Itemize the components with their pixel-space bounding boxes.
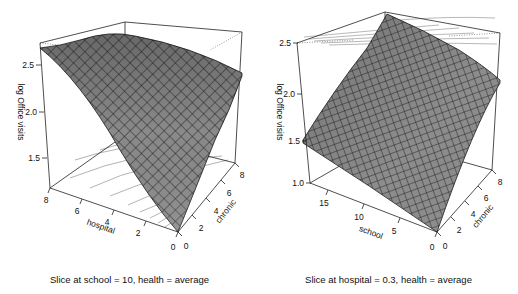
left-x-tick-label: 2 [136, 228, 141, 238]
right-z-axis-label: log Office visits [275, 83, 285, 140]
right-right-vertical-edge [492, 33, 500, 170]
left-x-tick-label: 8 [44, 195, 49, 205]
right-plot-canvas: 2.5 2.0 1.5 1.0 log Office visits 15 10 … [259, 0, 518, 294]
right-z-tick-label: 2.5 [279, 38, 291, 48]
right-x-tick-label: 10 [354, 212, 364, 222]
right-y-tick-label: 8 [498, 177, 503, 187]
right-z-axis-line [297, 43, 310, 183]
left-caption: Slice at school = 10, health = average [0, 274, 259, 285]
left-z-tick-label: 2.5 [22, 60, 34, 70]
left-y-tick-label: 2 [199, 223, 204, 233]
left-z-axis-line [40, 43, 50, 188]
left-surface-plot: 2.5 2.0 1.5 log Office visits 8 6 4 2 0 … [0, 0, 259, 294]
left-x-tick-label: 0 [171, 242, 176, 252]
left-z-tick-label: 1.5 [28, 153, 40, 163]
left-x-tick-label: 6 [75, 206, 80, 216]
right-y-tick-label: 6 [484, 193, 489, 203]
right-x-tick-label: 15 [319, 198, 329, 208]
right-y-tick-label: 0 [443, 241, 448, 251]
right-y-tick-label: 2 [457, 225, 462, 235]
right-x-tick-label: 0 [430, 242, 435, 252]
left-y-tick-label: 6 [227, 188, 232, 198]
right-surface-plot: 2.5 2.0 1.5 1.0 log Office visits 15 10 … [259, 0, 518, 294]
right-z-tick-label: 1.0 [292, 178, 304, 188]
right-x-tick-label: 5 [392, 226, 397, 236]
left-top-edge-back-right [125, 22, 242, 32]
right-caption: Slice at hospital = 0.3, health = averag… [259, 274, 518, 285]
left-y-tick-label: 8 [240, 170, 245, 180]
right-top-edge-back-left [297, 12, 385, 43]
left-z-tick-label: 2.0 [25, 107, 37, 117]
left-z-axis-label: log Office visits [16, 83, 26, 140]
left-right-vertical-edge [235, 32, 242, 163]
left-y-tick-label: 0 [184, 241, 189, 251]
left-back-base-edge-left [50, 135, 125, 188]
left-x-axis-label: hospital [85, 217, 116, 236]
left-plot-canvas: 2.5 2.0 1.5 log Office visits 8 6 4 2 0 … [0, 0, 259, 294]
right-x-axis-label: school [358, 223, 385, 241]
right-z-tick-label: 1.5 [288, 136, 300, 146]
